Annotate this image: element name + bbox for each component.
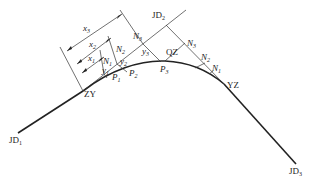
label-qz: QZ <box>166 47 178 57</box>
tangent-line-jd1-zy <box>18 91 83 133</box>
label-n3-left: N3 <box>132 31 142 42</box>
label-x2: x2 <box>88 39 96 50</box>
label-jd2: JD2 <box>152 10 165 21</box>
curve-layout-diagram: JD1 JD2 JD3 ZY QZ YZ P1 P2 P3 N1 N2 N3 N… <box>0 0 311 181</box>
label-zy: ZY <box>84 89 96 99</box>
label-p2: P2 <box>128 68 138 79</box>
label-x1: x1 <box>87 53 95 64</box>
tangent-line-yz-jd3 <box>224 84 296 164</box>
dim-ext-zy <box>60 47 83 91</box>
label-n1-right: N1 <box>211 63 221 74</box>
label-p3: P3 <box>159 64 169 75</box>
label-y1: y1 <box>101 65 109 76</box>
arrow-x2-start <box>77 59 82 64</box>
label-jd1: JD1 <box>9 135 22 146</box>
label-x3: x3 <box>82 23 90 34</box>
label-n2-right: N2 <box>200 52 210 63</box>
label-yz: YZ <box>227 80 239 90</box>
arrow-x3-start <box>67 46 72 51</box>
label-jd3: JD3 <box>289 166 302 177</box>
arrow-x1-start <box>82 68 87 73</box>
label-y3: y3 <box>141 46 149 57</box>
label-p1: P1 <box>111 72 121 83</box>
label-n3-right: N3 <box>186 38 196 49</box>
offset-right-n2 <box>195 63 205 68</box>
label-n2-left: N2 <box>115 44 125 55</box>
